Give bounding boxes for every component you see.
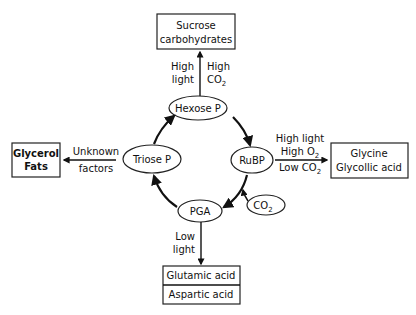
low-label: Low <box>175 231 195 242</box>
high-co2-label: High <box>207 61 230 72</box>
light-label: light <box>173 244 195 255</box>
aspartic-acid-label: Aspartic acid <box>169 289 234 300</box>
glutamic-acid-label: Glutamic acid <box>167 270 236 281</box>
arrow-hexose-to-rubp <box>233 117 250 145</box>
low-co2-label: Low CO2 <box>279 162 321 176</box>
hexose-p-label: Hexose P <box>175 103 221 114</box>
triose-p-label: Triose P <box>132 154 171 165</box>
photorespiration-diagram: Sucrose carbohydrates High light High CO… <box>0 0 416 315</box>
glycerol-label: Glycerol <box>13 148 59 159</box>
arrow-co2-in <box>243 190 248 201</box>
unknown-label: Unknown <box>73 146 119 157</box>
glycollic-acid-label: Glycollic acid <box>336 162 402 173</box>
rubp-label: RuBP <box>239 155 265 166</box>
arrow-pga-to-triose <box>154 176 177 207</box>
high-light-label-2: light <box>172 74 194 85</box>
carbohydrates-label: carbohydrates <box>160 34 232 45</box>
high-light-label: High <box>171 61 194 72</box>
arrow-triose-to-hexose <box>154 116 174 144</box>
glycine-label: Glycine <box>350 148 387 159</box>
high-light-right-label: High light <box>276 133 324 144</box>
sucrose-box: Sucrose carbohydrates <box>157 14 235 49</box>
high-co2-label-2: CO2 <box>207 74 226 88</box>
glycine-box: Glycine Glycollic acid <box>331 143 408 178</box>
pga-label: PGA <box>190 206 211 217</box>
high-o2-label: High O2 <box>281 146 320 160</box>
sucrose-label: Sucrose <box>176 20 216 31</box>
factors-label: factors <box>79 163 114 174</box>
glutamic-box: Glutamic acid Aspartic acid <box>163 266 240 304</box>
fats-label: Fats <box>24 161 48 172</box>
glycerol-box: Glycerol Fats <box>12 143 60 177</box>
